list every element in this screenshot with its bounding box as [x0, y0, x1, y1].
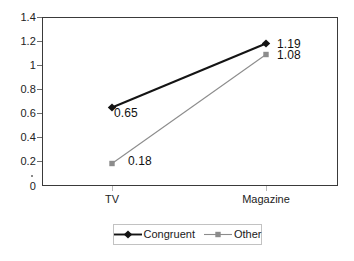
series-line-congruent	[112, 44, 266, 108]
chart-legend[interactable]: Congruent Other	[113, 224, 262, 245]
marker-other-magazine	[263, 52, 268, 57]
data-label-other-magazine: 1.08	[277, 49, 301, 61]
legend-key-other-icon	[204, 230, 232, 239]
line-chart: 1.4 1.2 1 0.8 0.6 0.4 0.2 0 TV Magazine …	[0, 0, 354, 261]
legend-entry-other[interactable]: Other	[204, 229, 262, 240]
data-label-congruent-tv: 0.65	[114, 107, 138, 119]
legend-entry-congruent[interactable]: Congruent	[114, 229, 195, 240]
marker-other-tv	[109, 161, 114, 166]
marker-congruent-magazine	[262, 40, 270, 48]
legend-label-congruent: Congruent	[144, 229, 195, 240]
legend-label-other: Other	[234, 229, 262, 240]
data-label-other-tv: 0.18	[128, 155, 152, 167]
legend-key-congruent-icon	[114, 230, 142, 239]
